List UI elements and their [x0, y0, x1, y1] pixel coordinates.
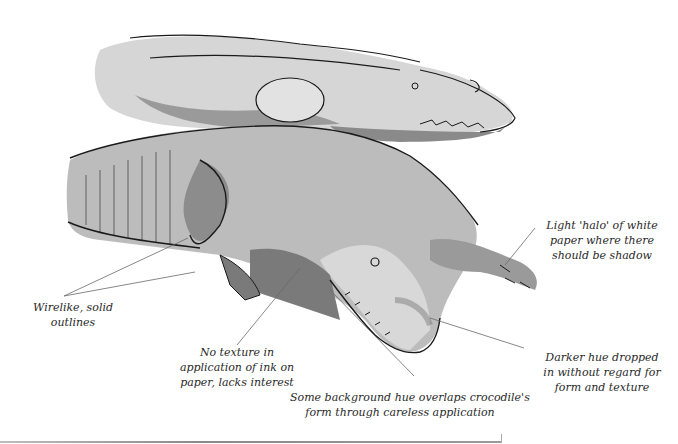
frame-bottom-rule	[0, 441, 502, 443]
annotation-line: outlines	[18, 315, 128, 330]
annotation-background-hue: Some background hue overlaps crocodile's…	[290, 390, 510, 420]
annotation-line: Light 'halo' of white	[532, 218, 672, 233]
annotation-line: application of ink on	[172, 360, 302, 375]
annotation-line: form and texture	[532, 380, 672, 395]
annotation-line: No texture in	[172, 345, 302, 360]
annotation-line: paper, lacks interest	[172, 375, 302, 390]
annotation-no-texture: No texture in application of ink on pape…	[172, 345, 302, 390]
annotation-line: should be shadow	[532, 248, 672, 263]
back-crocodile	[95, 35, 515, 142]
annotation-wirelike-outlines: Wirelike, solid outlines	[18, 300, 128, 330]
annotation-line: Darker hue dropped	[532, 350, 672, 365]
annotation-line: in without regard for	[532, 365, 672, 380]
front-crocodile	[67, 126, 537, 353]
annotation-line: Wirelike, solid	[18, 300, 128, 315]
annotation-line: paper where there	[532, 233, 672, 248]
annotation-darker-hue: Darker hue dropped in without regard for…	[532, 350, 672, 395]
annotation-halo: Light 'halo' of white paper where there …	[532, 218, 672, 263]
annotation-line: Some background hue overlaps crocodile's	[290, 390, 510, 405]
frame-rule-end	[501, 434, 502, 443]
annotation-line: form through careless application	[290, 405, 510, 420]
